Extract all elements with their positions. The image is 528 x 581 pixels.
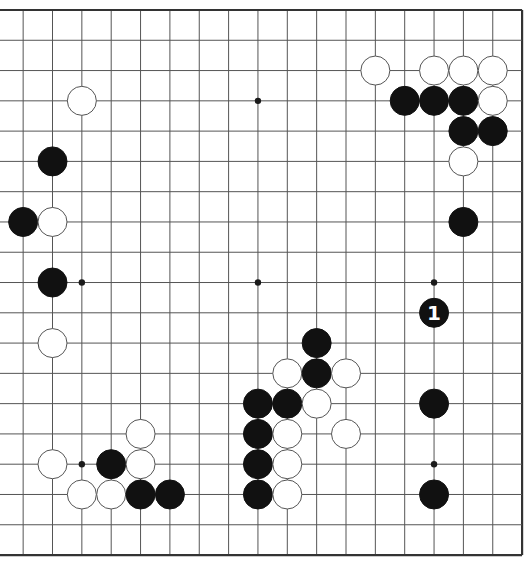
black-stone-icon — [390, 86, 419, 115]
black-stone[interactable] — [478, 117, 507, 146]
white-stone-icon — [126, 419, 155, 448]
white-stone[interactable] — [478, 56, 507, 85]
white-stone[interactable] — [97, 480, 126, 509]
star-point-icon — [431, 279, 437, 285]
white-stone-icon — [361, 56, 390, 85]
black-stone[interactable]: 1 — [420, 298, 449, 327]
black-stone[interactable] — [449, 207, 478, 236]
black-stone-icon — [243, 419, 272, 448]
white-stone[interactable] — [273, 480, 302, 509]
white-stone-icon — [273, 450, 302, 479]
black-stone-icon — [243, 389, 272, 418]
black-stone-icon — [9, 207, 38, 236]
star-point-icon — [255, 279, 261, 285]
black-stone[interactable] — [449, 117, 478, 146]
white-stone[interactable] — [449, 147, 478, 176]
white-stone-icon — [302, 389, 331, 418]
white-stone[interactable] — [361, 56, 390, 85]
black-stone[interactable] — [390, 86, 419, 115]
white-stone[interactable] — [67, 480, 96, 509]
black-stone[interactable] — [38, 268, 67, 297]
black-stone[interactable] — [243, 480, 272, 509]
black-stone-icon — [273, 389, 302, 418]
white-stone-icon — [126, 450, 155, 479]
black-stone-icon — [449, 117, 478, 146]
white-stone-icon — [67, 480, 96, 509]
black-stone[interactable] — [420, 86, 449, 115]
white-stone-icon — [449, 147, 478, 176]
black-stone[interactable] — [420, 389, 449, 418]
black-stone[interactable] — [126, 480, 155, 509]
white-stone[interactable] — [126, 419, 155, 448]
white-stone-icon — [38, 207, 67, 236]
white-stone[interactable] — [478, 86, 507, 115]
black-stone-icon — [243, 480, 272, 509]
black-stone[interactable] — [97, 450, 126, 479]
white-stone-icon — [38, 450, 67, 479]
black-stone[interactable] — [9, 207, 38, 236]
black-stone-icon — [97, 450, 126, 479]
black-stone-icon — [38, 268, 67, 297]
star-point-icon — [431, 461, 437, 467]
board-canvas[interactable]: 1 — [0, 0, 528, 581]
black-stone-icon — [302, 359, 331, 388]
white-stone-icon — [332, 359, 361, 388]
black-stone[interactable] — [155, 480, 184, 509]
white-stone[interactable] — [38, 207, 67, 236]
white-stone[interactable] — [273, 359, 302, 388]
black-stone-icon — [126, 480, 155, 509]
white-stone[interactable] — [420, 56, 449, 85]
black-stone[interactable] — [302, 329, 331, 358]
white-stone-icon — [273, 359, 302, 388]
black-stone-icon — [449, 207, 478, 236]
black-stone[interactable] — [243, 419, 272, 448]
white-stone-icon — [273, 419, 302, 448]
go-board[interactable]: 1 — [0, 0, 528, 581]
star-point-icon — [255, 98, 261, 104]
white-stone[interactable] — [449, 56, 478, 85]
move-number-label: 1 — [427, 301, 441, 325]
black-stone-icon — [478, 117, 507, 146]
white-stone-icon — [38, 329, 67, 358]
white-stone[interactable] — [332, 419, 361, 448]
star-point-icon — [79, 461, 85, 467]
black-stone-icon — [302, 329, 331, 358]
black-stone[interactable] — [449, 86, 478, 115]
black-stone[interactable] — [38, 147, 67, 176]
white-stone-icon — [449, 56, 478, 85]
black-stone[interactable] — [302, 359, 331, 388]
white-stone[interactable] — [67, 86, 96, 115]
white-stone-icon — [67, 86, 96, 115]
white-stone[interactable] — [332, 359, 361, 388]
white-stone-icon — [97, 480, 126, 509]
white-stone-icon — [478, 86, 507, 115]
black-stone[interactable] — [273, 389, 302, 418]
white-stone[interactable] — [273, 419, 302, 448]
white-stone[interactable] — [38, 450, 67, 479]
black-stone[interactable] — [243, 389, 272, 418]
white-stone[interactable] — [273, 450, 302, 479]
black-stone-icon — [420, 480, 449, 509]
black-stone[interactable] — [243, 450, 272, 479]
white-stone-icon — [273, 480, 302, 509]
black-stone-icon — [449, 86, 478, 115]
white-stone[interactable] — [38, 329, 67, 358]
black-stone[interactable] — [420, 480, 449, 509]
white-stone-icon — [332, 419, 361, 448]
black-stone-icon — [420, 389, 449, 418]
star-point-icon — [79, 279, 85, 285]
white-stone-icon — [478, 56, 507, 85]
black-stone-icon — [38, 147, 67, 176]
white-stone-icon — [420, 56, 449, 85]
black-stone-icon — [420, 86, 449, 115]
white-stone[interactable] — [302, 389, 331, 418]
white-stone[interactable] — [126, 450, 155, 479]
black-stone-icon — [243, 450, 272, 479]
black-stone-icon — [155, 480, 184, 509]
